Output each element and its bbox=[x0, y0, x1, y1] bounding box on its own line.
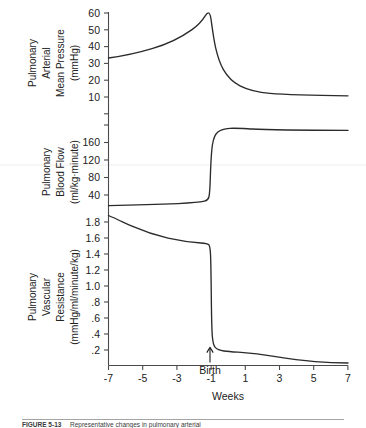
x-tick-label-1: 1 bbox=[242, 372, 248, 384]
panel3-tick-label-1-4: 1.4 bbox=[85, 248, 100, 260]
panel2-title-line-3: (ml/kg·minute) bbox=[69, 140, 80, 204]
panel3-tick-label-0-4: .4 bbox=[91, 328, 100, 340]
panel2-axis-title: Pulmonary Blood Flow (ml/kg·minute) bbox=[41, 140, 80, 204]
x-tick-label-minus3: -3 bbox=[172, 372, 181, 384]
x-tick-label-minus1: -1 bbox=[206, 372, 215, 384]
panel1-tick-label-10: 10 bbox=[88, 91, 100, 103]
panel1-curve bbox=[109, 13, 349, 96]
panel1-tick-label-30: 30 bbox=[88, 57, 100, 69]
panel2-curve bbox=[109, 128, 349, 205]
panel3-tick-label-1-0: 1.0 bbox=[85, 280, 100, 292]
panel1-title-line-1: Pulmonary bbox=[27, 39, 38, 87]
panel-pulmonary-arterial-mean-pressure: 60 50 40 30 20 10 Pulmonary Arterial Mea… bbox=[27, 7, 348, 114]
caption-block: FIGURE 5-13 Representative changes in pu… bbox=[22, 421, 201, 428]
panel2-tick-label-80: 80 bbox=[88, 171, 100, 183]
panel3-title-line-3: Resistance bbox=[55, 272, 66, 322]
panel1-tick-label-20: 20 bbox=[88, 74, 100, 86]
panel3-tick-label-0-8: .8 bbox=[91, 296, 100, 308]
panel1-tick-label-50: 50 bbox=[88, 24, 100, 36]
x-tick-label-minus7: -7 bbox=[104, 372, 113, 384]
panel2-tick-label-120: 120 bbox=[82, 154, 100, 166]
panel2-title-line-2: Blood Flow bbox=[55, 146, 66, 196]
panel3-y-ticks bbox=[104, 222, 109, 350]
caption-text: Representative changes in pulmonary arte… bbox=[70, 421, 201, 428]
panel3-curve bbox=[109, 216, 349, 364]
x-tick-label-3: 3 bbox=[277, 372, 283, 384]
panel3-axis-title: Pulmonary Vascular Resistance (mmHg/ml/m… bbox=[27, 249, 80, 345]
panel2-title-line-1: Pulmonary bbox=[41, 148, 52, 196]
panel3-tick-label-1-8: 1.8 bbox=[85, 216, 100, 228]
panel1-tick-label-60: 60 bbox=[88, 7, 100, 19]
panel3-title-line-2: Vascular bbox=[41, 277, 52, 316]
x-tick-label-5: 5 bbox=[311, 372, 317, 384]
panel3-tick-label-1-6: 1.6 bbox=[85, 232, 100, 244]
panel3-tick-label-1-2: 1.2 bbox=[85, 264, 100, 276]
x-tick-label-minus5: -5 bbox=[138, 372, 147, 384]
panel3-tick-label-0-2: .2 bbox=[91, 344, 100, 356]
x-axis-ticks bbox=[109, 366, 348, 371]
panel1-title-line-3: Mean Pressure bbox=[55, 29, 66, 97]
panel1-y-ticks bbox=[104, 13, 109, 114]
panel1-title-line-2: Arterial bbox=[41, 47, 52, 79]
figure-root: 60 50 40 30 20 10 Pulmonary Arterial Mea… bbox=[0, 0, 366, 428]
x-tick-label-7: 7 bbox=[345, 372, 351, 384]
panel2-y-ticks bbox=[104, 125, 109, 195]
panel3-title-line-1: Pulmonary bbox=[27, 273, 38, 321]
x-axis-title: Weeks bbox=[212, 390, 244, 402]
panel1-axis-title: Pulmonary Arterial Mean Pressure (mmHg) bbox=[27, 29, 80, 97]
panel3-tick-label-0-6: .6 bbox=[91, 312, 100, 324]
panel-pulmonary-vascular-resistance: 1.8 1.6 1.4 1.2 1.0 .8 .6 .4 .2 Pulmonar… bbox=[27, 216, 348, 377]
perinatal-pulmonary-circulation-chart: 60 50 40 30 20 10 Pulmonary Arterial Mea… bbox=[0, 0, 366, 428]
caption-prefix: FIGURE 5-13 bbox=[22, 421, 62, 428]
panel1-title-line-4: (mmHg) bbox=[69, 45, 80, 81]
panel2-tick-label-160: 160 bbox=[82, 136, 100, 148]
panel1-tick-label-40: 40 bbox=[88, 40, 100, 52]
panel2-tick-label-40: 40 bbox=[88, 189, 100, 201]
panel3-title-line-4: (mmHg/ml/minute/kg) bbox=[69, 249, 80, 345]
